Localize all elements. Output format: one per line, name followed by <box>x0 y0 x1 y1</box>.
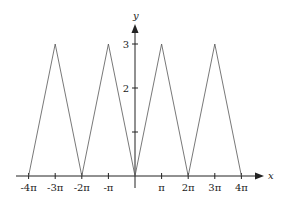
y-axis-label: y <box>132 10 139 21</box>
y-axis-arrow-icon <box>132 24 139 33</box>
triangle-wave-chart: xy-4π-3π-2π-ππ2π3π4π23 <box>0 0 283 204</box>
x-tick-label: 4π <box>235 182 248 193</box>
x-axis-arrow-icon <box>255 173 264 180</box>
x-tick-label: -4π <box>20 182 37 193</box>
x-tick-label: 2π <box>182 182 195 193</box>
y-tick-label: 2 <box>123 83 129 94</box>
x-tick-label: π <box>158 182 165 193</box>
x-tick-label: -π <box>103 182 113 193</box>
y-tick-label: 3 <box>123 39 129 50</box>
x-tick-label: -2π <box>74 182 91 193</box>
x-tick-label: 3π <box>208 182 221 193</box>
x-axis-label: x <box>268 170 274 181</box>
x-tick-label: -3π <box>47 182 64 193</box>
